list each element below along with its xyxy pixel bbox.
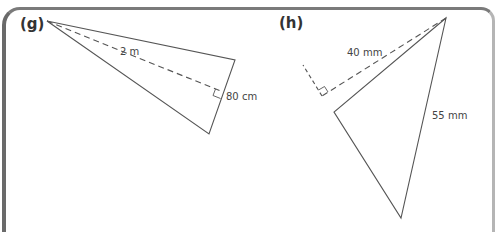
figure-g-label: (g) — [20, 15, 44, 33]
figure-h-label: (h) — [279, 14, 303, 32]
height-line-h — [322, 18, 446, 96]
figure-g: (g) 2 m 80 cm — [20, 15, 257, 134]
triangle-g — [47, 21, 235, 134]
measure-h-base: 55 mm — [432, 110, 467, 121]
right-angle-marker-h — [319, 87, 329, 93]
base-extension-h — [303, 65, 322, 96]
measure-h-height: 40 mm — [347, 47, 382, 58]
measure-g-height: 2 m — [120, 46, 139, 57]
triangles-diagram: (g) 2 m 80 cm (h) 40 mm 55 mm — [0, 0, 504, 232]
measure-g-base: 80 cm — [226, 91, 257, 102]
figure-h: (h) 40 mm 55 mm — [279, 14, 467, 218]
